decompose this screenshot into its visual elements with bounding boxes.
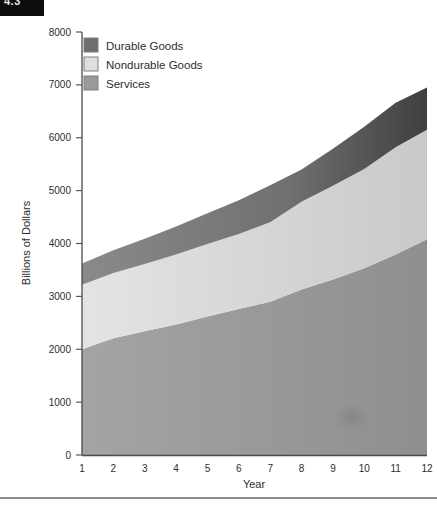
legend-label: Nondurable Goods (106, 59, 203, 71)
x-tick-label: 1 (79, 463, 85, 474)
x-tick-label: 3 (142, 463, 148, 474)
x-tick-label: 4 (173, 463, 179, 474)
x-tick-label: 7 (267, 463, 273, 474)
legend-swatch (84, 76, 98, 90)
y-tick-label: 6000 (49, 132, 72, 143)
legend-swatch (84, 38, 98, 52)
corner-tab-label: 4.3 (4, 0, 21, 7)
x-tick-label: 5 (205, 463, 211, 474)
x-tick-label: 2 (111, 463, 117, 474)
y-tick-label: 0 (65, 450, 71, 461)
figure-container: 010002000300040005000600070008000 123456… (0, 0, 437, 508)
x-tick-label: 9 (330, 463, 336, 474)
x-axis-ticks: 123456789101112 (79, 463, 433, 474)
x-axis-title: Year (243, 478, 266, 490)
legend-label: Durable Goods (106, 40, 184, 52)
footer-rule (0, 497, 437, 499)
print-smudge (334, 404, 370, 432)
y-axis-title: Billions of Dollars (20, 200, 32, 285)
x-tick-label: 10 (359, 463, 371, 474)
x-tick-label: 8 (299, 463, 305, 474)
y-tick-label: 4000 (49, 238, 72, 249)
y-tick-label: 3000 (49, 291, 72, 302)
x-tick-label: 11 (390, 463, 401, 474)
legend-swatch (84, 57, 98, 71)
legend-label: Services (106, 78, 150, 90)
y-tick-label: 1000 (49, 397, 72, 408)
corner-tab: 4.3 (0, 0, 44, 16)
stacked-area-chart: 010002000300040005000600070008000 123456… (0, 0, 437, 508)
y-axis-ticks: 010002000300040005000600070008000 (49, 27, 82, 461)
y-tick-label: 2000 (49, 344, 72, 355)
y-tick-label: 7000 (49, 79, 72, 90)
x-tick-label: 12 (421, 463, 433, 474)
y-tick-label: 5000 (49, 185, 72, 196)
y-tick-label: 8000 (49, 27, 72, 38)
x-tick-label: 6 (236, 463, 242, 474)
